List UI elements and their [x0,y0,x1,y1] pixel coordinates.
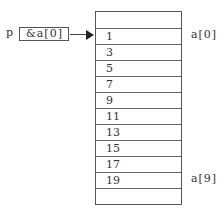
array-cell [96,12,181,28]
label-a0: a[0] [191,28,217,41]
array-memory-block: 1 3 5 7 9 11 13 15 17 19 [95,11,182,205]
array-cell: 13 [96,124,181,140]
array-cell: 1 [96,28,181,44]
array-cell: 9 [96,92,181,108]
array-cell: 15 [96,140,181,156]
array-cell [96,188,181,204]
array-cell: 7 [96,76,181,92]
array-cell: 17 [96,156,181,172]
array-cell: 19 [96,172,181,188]
label-a9: a[9] [191,172,217,185]
arrow-head-icon [86,30,94,40]
array-cell: 3 [96,44,181,60]
pointer-name: p [6,26,13,39]
arrow-line [70,34,87,35]
array-cell: 5 [96,60,181,76]
pointer-value-box: &a[0] [19,27,69,41]
array-cell: 11 [96,108,181,124]
